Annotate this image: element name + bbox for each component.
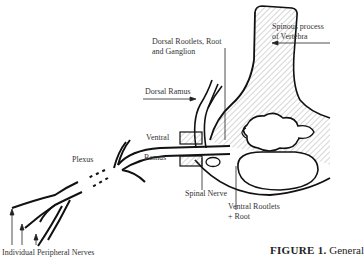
spinous-process-line1: Spinous process <box>272 22 324 32</box>
spinal-nerve-label: Spinal Nerve <box>185 189 227 199</box>
ramus-label: Ramus <box>144 153 166 163</box>
ventral-rootlets-line2: + Root <box>228 212 280 222</box>
dorsal-rootlets-line2: and Ganglion <box>152 47 222 57</box>
spinal-nerve-oval <box>206 158 220 167</box>
figure-caption: FIGURE 1. General <box>270 244 364 256</box>
caption-text: General <box>326 244 364 256</box>
spinous-process-line2: of Vertebra <box>272 32 324 42</box>
ventral-rootlets-line1: Ventral Rootlets <box>228 202 280 212</box>
caption-label: FIGURE 1. <box>270 244 326 256</box>
dorsal-ramus-label: Dorsal Ramus <box>145 87 191 97</box>
individual-peripheral-nerves-label: Individual Peripheral Nerves <box>2 248 94 258</box>
ventral-hatch-block <box>180 132 202 144</box>
ramus-hatch-block <box>180 156 202 166</box>
ventral-rootlets-label: Ventral Rootlets + Root <box>228 202 280 222</box>
spinous-process-label: Spinous process of Vertebra <box>272 22 324 42</box>
dorsal-rootlets-label: Dorsal Rootlets, Root and Ganglion <box>152 37 222 57</box>
plexus-label: Plexus <box>72 155 93 165</box>
dorsal-rootlets-line1: Dorsal Rootlets, Root <box>152 37 222 47</box>
ventral-label: Ventral <box>146 133 169 143</box>
